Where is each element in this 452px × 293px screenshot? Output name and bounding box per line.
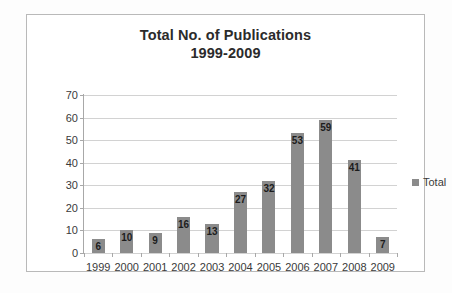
chart-legend: Total [412, 176, 446, 188]
bar-value-label: 7 [377, 240, 388, 250]
bar-value-label: 59 [320, 123, 331, 133]
x-axis-label: 2001 [141, 261, 169, 273]
legend-label-total: Total [423, 176, 446, 188]
x-axis-label: 2008 [340, 261, 368, 273]
bar-cell: 6 [84, 95, 112, 253]
bar-cell: 13 [198, 95, 226, 253]
bar-cell: 32 [255, 95, 283, 253]
bar[interactable]: 13 [205, 224, 218, 253]
x-tick-mark [84, 253, 85, 257]
bar-cell: 16 [169, 95, 197, 253]
chart-title-line1: Total No. of Publications [140, 27, 311, 43]
bar-value-label: 41 [349, 163, 360, 173]
y-tick-label-60: 60 [66, 112, 78, 124]
bar[interactable]: 27 [234, 192, 247, 253]
x-axis-label: 2000 [112, 261, 140, 273]
bar-value-label: 32 [263, 184, 274, 194]
x-axis-label: 2009 [369, 261, 397, 273]
bar-cell: 59 [312, 95, 340, 253]
x-tick-mark [226, 253, 227, 257]
bar-series-total: 6109161327325359417 [84, 95, 397, 253]
y-tick-label-50: 50 [66, 134, 78, 146]
bar-cell: 41 [340, 95, 368, 253]
y-tick-label-10: 10 [66, 224, 78, 236]
bar[interactable]: 9 [149, 233, 162, 253]
bar-value-label: 27 [235, 195, 246, 205]
bar-value-label: 53 [292, 136, 303, 146]
x-axis-label: 2005 [255, 261, 283, 273]
bar-cell: 27 [226, 95, 254, 253]
x-axis-label: 2004 [226, 261, 254, 273]
bar[interactable]: 41 [348, 160, 361, 253]
bar-value-label: 9 [150, 236, 161, 246]
x-tick-mark [141, 253, 142, 257]
x-axis-labels: 1999200020012002200320042005200620072008… [84, 261, 397, 273]
bar[interactable]: 7 [376, 237, 389, 253]
x-tick-mark [369, 253, 370, 257]
chart-figure: Total No. of Publications 1999-2009 0102… [0, 0, 452, 293]
chart-plot-frame: Total No. of Publications 1999-2009 0102… [26, 14, 425, 272]
x-tick-mark [198, 253, 199, 257]
bar[interactable]: 59 [319, 120, 332, 253]
bar-cell: 10 [112, 95, 140, 253]
bar[interactable]: 6 [92, 239, 105, 253]
bar-value-label: 6 [93, 242, 104, 252]
y-tick-label-30: 30 [66, 179, 78, 191]
x-tick-mark [312, 253, 313, 257]
x-tick-mark [397, 253, 398, 257]
bar-cell: 7 [369, 95, 397, 253]
bar[interactable]: 10 [120, 230, 133, 253]
plot-area: 010203040506070 6109161327325359417 [84, 95, 397, 253]
y-tick-label-70: 70 [66, 89, 78, 101]
bar-cell: 53 [283, 95, 311, 253]
y-tick-label-20: 20 [66, 202, 78, 214]
bar-cell: 9 [141, 95, 169, 253]
x-axis-label: 2006 [283, 261, 311, 273]
x-axis-label: 2003 [198, 261, 226, 273]
x-axis-label: 2007 [312, 261, 340, 273]
y-tick-label-40: 40 [66, 157, 78, 169]
legend-swatch-total [412, 179, 419, 186]
x-tick-mark [340, 253, 341, 257]
chart-title-line2: 1999-2009 [27, 44, 424, 62]
x-tick-mark [169, 253, 170, 257]
chart-title: Total No. of Publications 1999-2009 [27, 26, 424, 62]
y-tick-label-0: 0 [72, 247, 78, 259]
bar[interactable]: 16 [177, 217, 190, 253]
bar-value-label: 16 [178, 220, 189, 230]
bar-value-label: 13 [206, 227, 217, 237]
x-tick-mark [255, 253, 256, 257]
bar[interactable]: 53 [291, 133, 304, 253]
bar-value-label: 10 [121, 233, 132, 243]
x-tick-mark [283, 253, 284, 257]
gridline-0 [84, 253, 397, 254]
x-axis-label: 1999 [84, 261, 112, 273]
bar[interactable]: 32 [262, 181, 275, 253]
x-tick-mark [112, 253, 113, 257]
x-axis-label: 2002 [169, 261, 197, 273]
